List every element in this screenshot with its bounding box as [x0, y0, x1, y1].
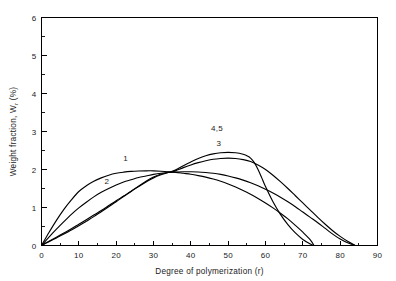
y-tick-label: 6	[32, 14, 37, 23]
y-tick-label: 4	[32, 90, 37, 99]
y-tick-label: 0	[32, 242, 37, 251]
curve-label-2: 2	[104, 177, 109, 186]
curve-label-4-5: 4,5	[211, 124, 223, 133]
y-tick-label: 1	[32, 204, 37, 213]
x-tick-label: 10	[74, 251, 84, 260]
curve-3	[42, 158, 356, 245]
plot-frame	[42, 18, 378, 246]
y-tick-label: 5	[32, 52, 37, 61]
x-tick-label: 70	[298, 251, 308, 260]
curve-4-5	[42, 152, 315, 245]
y-tick-label: 2	[32, 166, 37, 175]
x-tick-label: 40	[186, 251, 196, 260]
x-tick-label: 0	[39, 251, 44, 260]
curve-label-1: 1	[123, 154, 128, 163]
curve-1	[42, 171, 315, 246]
x-tick-label: 60	[261, 251, 271, 260]
x-tick-label: 20	[111, 251, 121, 260]
x-tick-label: 50	[223, 251, 233, 260]
chart-figure: 010203040506070809001234561234,5Degree o…	[0, 0, 396, 281]
chart-canvas: 010203040506070809001234561234,5Degree o…	[0, 0, 396, 281]
y-axis-title: Weight fraction, Wr (%)	[9, 87, 19, 177]
x-axis-title: Degree of polymerization (r)	[155, 267, 263, 276]
x-tick-label: 80	[335, 251, 345, 260]
y-tick-label: 3	[32, 128, 37, 137]
curve-label-3: 3	[216, 139, 221, 148]
x-tick-label: 30	[149, 251, 159, 260]
x-tick-label: 90	[373, 251, 383, 260]
